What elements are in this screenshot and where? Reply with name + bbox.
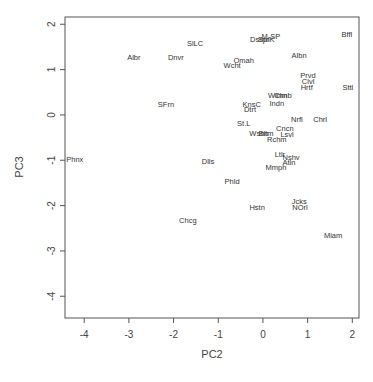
chart-background: [0, 0, 373, 382]
point-label: SlLC: [187, 39, 204, 48]
point-label: Miam: [324, 231, 342, 240]
x-tick-label: -3: [124, 329, 133, 340]
y-axis-title: PC3: [13, 156, 25, 177]
point-label: Albr: [127, 53, 141, 62]
point-label: Albn: [292, 51, 307, 60]
point-label: Rchm: [267, 135, 287, 144]
point-label: Mmph: [265, 163, 286, 172]
x-tick-label: 2: [350, 329, 356, 340]
point-label: Dtrt: [244, 105, 257, 114]
y-tick-label: -1: [46, 155, 57, 164]
x-tick-label: -2: [169, 329, 178, 340]
point-label: Indn: [269, 99, 284, 108]
point-label: Dlls: [202, 157, 215, 166]
point-label: Chrl: [313, 115, 327, 124]
point-label: Phnx: [66, 155, 83, 164]
x-axis-title: PC2: [201, 348, 222, 360]
x-tick-label: 0: [260, 329, 266, 340]
y-tick-label: -4: [46, 291, 57, 300]
y-tick-label: -2: [46, 201, 57, 210]
x-tick-label: 1: [305, 329, 311, 340]
y-tick-label: 1: [46, 66, 57, 72]
point-label: SprK: [258, 35, 275, 44]
scatter-chart: -4-3-2-1012 -4-3-2-1012 BfflM-SPDsmnSprK…: [0, 0, 373, 382]
point-label: Phld: [225, 177, 240, 186]
point-label: SFrn: [158, 100, 174, 109]
point-label: NOrl: [292, 203, 308, 212]
point-label: St.L: [237, 119, 250, 128]
point-label: Hstn: [249, 203, 264, 212]
point-label: Nrfl: [291, 115, 303, 124]
point-label: Hrtf: [301, 83, 314, 92]
point-label: Bffl: [342, 30, 353, 39]
x-tick-label: -1: [214, 329, 223, 340]
y-tick-label: 2: [46, 21, 57, 27]
point-label: Dnvr: [168, 53, 184, 62]
point-label: Chcg: [179, 216, 197, 225]
point-label: Sttl: [342, 83, 353, 92]
y-tick-label: 0: [46, 112, 57, 118]
point-label: Wcht: [224, 61, 242, 70]
x-tick-label: -4: [80, 329, 89, 340]
y-tick-label: -3: [46, 246, 57, 255]
